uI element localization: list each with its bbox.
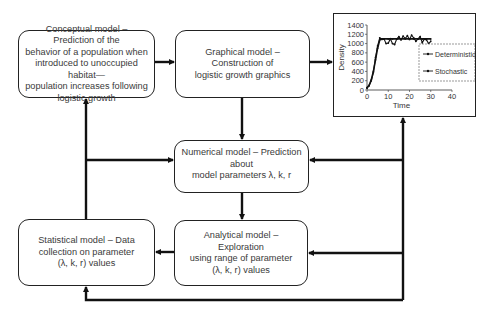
statistical-model-node: Statistical model – Data collection on p…: [18, 219, 155, 286]
node-text: Conceptual model – Prediction of the: [25, 24, 148, 47]
node-text: using range of parameter: [181, 253, 301, 265]
node-text: logistic growth: [25, 93, 148, 105]
node-text: behavior of a population when: [25, 47, 148, 59]
graphical-model-node: Graphical model – Construction of logist…: [175, 30, 310, 98]
logistic-growth-chart-panel: 0200400600800100012001400010203040TimeDe…: [333, 13, 476, 117]
x-axis-label: Time: [393, 101, 411, 110]
numerical-model-node: Numerical model – Prediction about model…: [174, 140, 309, 193]
y-tick-label: 200: [351, 76, 364, 85]
y-tick-label: 1200: [347, 30, 364, 39]
analytical-model-node: Analytical model – Exploration using ran…: [174, 220, 308, 286]
y-tick-label: 0: [360, 86, 364, 95]
node-text: introduced to unoccupied habitat—: [25, 58, 148, 81]
node-text: Graphical model – Construction of: [182, 47, 303, 70]
node-text: model parameters λ, k, r: [181, 170, 302, 182]
x-tick-label: 30: [427, 92, 435, 101]
legend-entry: Stochastic: [435, 68, 468, 75]
x-tick-label: 40: [448, 92, 456, 101]
y-tick-label: 800: [351, 48, 364, 57]
y-tick-label: 1400: [347, 21, 364, 30]
legend-entry: Deterministic: [435, 51, 475, 58]
y-tick-label: 1000: [347, 39, 364, 48]
node-text: logistic growth graphics: [182, 70, 303, 82]
y-axis-label: Density: [337, 44, 346, 71]
node-text: collection on parameter: [38, 247, 135, 259]
x-tick-label: 0: [365, 92, 369, 101]
y-tick-label: 600: [351, 58, 364, 67]
node-text: Analytical model – Exploration: [181, 230, 301, 253]
x-tick-label: 10: [384, 92, 392, 101]
density-time-chart: 0200400600800100012001400010203040TimeDe…: [334, 14, 475, 116]
node-text: Numerical model – Prediction about: [181, 147, 302, 170]
conceptual-model-node: Conceptual model – Prediction of the beh…: [18, 30, 155, 98]
node-text: (λ, k, r) values: [181, 265, 301, 277]
node-text: population increases following: [25, 81, 148, 93]
node-text: Statistical model – Data: [38, 235, 135, 247]
node-text: (λ, k, r) values: [38, 258, 135, 270]
x-tick-label: 20: [405, 92, 413, 101]
y-tick-label: 400: [351, 67, 364, 76]
